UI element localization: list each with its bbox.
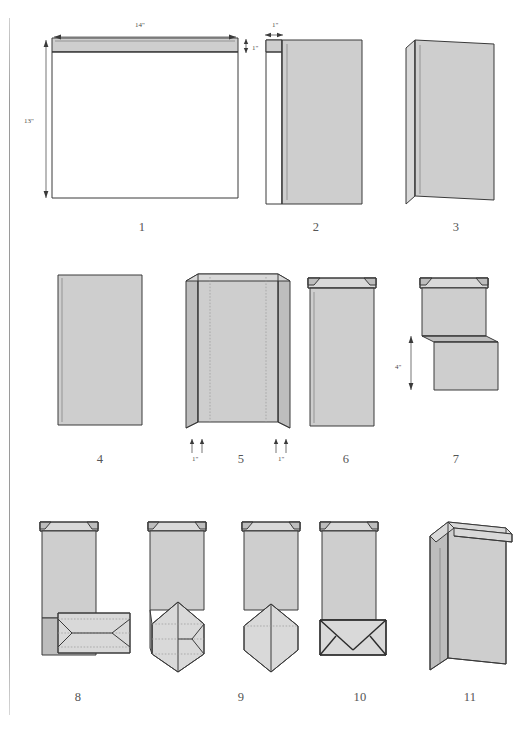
dimension-gusset-right: 1" [278,455,284,463]
diagram-page: 14" 13" 1" 1 1" [0,0,522,749]
dimension-bottom-fold-arrow [406,334,416,392]
figure-10-base-closed [316,520,416,675]
figure-11-finished-bag [426,518,521,676]
figure-7-bottom-folded [418,276,508,401]
dimension-sheet-height: 13" [24,117,34,125]
dimension-gusset-right-arrow [272,437,294,455]
caption-step-2: 2 [286,220,346,235]
dimension-sheet-width: 14" [135,21,145,29]
figure-8-base-creased [36,520,156,670]
figure-6-gusseted-tube-top [306,276,386,431]
dimension-top-strip: 1" [252,44,258,52]
caption-step-6: 6 [316,452,376,467]
caption-step-3: 3 [426,220,486,235]
caption-step-4: 4 [70,452,130,467]
figure-1-flat-sheet [52,38,242,203]
dimension-width-arrow [52,32,242,42]
dimension-bottom-fold: 4" [395,363,401,371]
caption-step-1: 1 [112,220,172,235]
figure-5-gusseted-tube [186,274,296,432]
figure-4-flat-tube [58,275,148,430]
caption-step-9: 9 [211,690,271,705]
dimension-height-arrow [41,38,51,200]
caption-step-10: 10 [330,690,390,705]
dimension-gusset-left: 1" [192,455,198,463]
dimension-side-margin: 1" [272,21,278,29]
caption-step-8: 8 [48,690,108,705]
dimension-top-strip-arrow [242,38,250,54]
caption-step-11: 11 [440,690,500,705]
caption-step-7: 7 [426,452,486,467]
caption-step-5: 5 [211,452,271,467]
dimension-side-margin-arrow [264,31,288,39]
page-margin-rule [9,18,10,715]
dimension-gusset-left-arrow [188,437,210,455]
figure-3-flap-closing [406,40,506,208]
figure-2-folded-sheet [266,40,366,208]
